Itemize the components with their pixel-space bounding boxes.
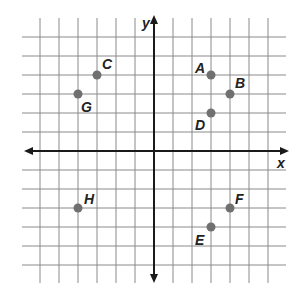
point-marker-icon — [74, 204, 83, 213]
point-label: F — [235, 191, 244, 207]
point-label: C — [102, 56, 113, 72]
point-marker-icon — [93, 71, 102, 80]
point-marker-icon — [226, 90, 235, 99]
point-label: B — [235, 75, 245, 91]
point-label: G — [81, 99, 92, 115]
point-marker-icon — [226, 204, 235, 213]
point-a: A — [194, 60, 216, 80]
point-h: H — [74, 191, 96, 213]
coordinate-grid: x y ABCDEFGH — [0, 0, 299, 290]
point-b: B — [226, 75, 246, 99]
point-marker-icon — [207, 109, 216, 118]
point-marker-icon — [74, 90, 83, 99]
point-d: D — [195, 109, 216, 134]
y-axis-label: y — [141, 15, 151, 31]
point-label: H — [84, 191, 95, 207]
x-axis-label: x — [276, 155, 286, 171]
point-marker-icon — [207, 71, 216, 80]
coordinate-plane: x y ABCDEFGH — [0, 0, 299, 290]
x-axis-arrow-right-icon — [280, 147, 289, 155]
y-axis-arrow-down-icon — [150, 274, 158, 283]
point-c: C — [93, 56, 114, 80]
point-marker-icon — [207, 223, 216, 232]
point-label: E — [195, 232, 205, 248]
point-e: E — [195, 223, 216, 249]
y-axis-arrow-up-icon — [150, 15, 158, 24]
point-label: D — [195, 117, 205, 133]
point-g: G — [74, 90, 93, 116]
point-label: A — [194, 60, 205, 76]
point-f: F — [226, 191, 245, 213]
x-axis-arrow-left-icon — [24, 147, 33, 155]
